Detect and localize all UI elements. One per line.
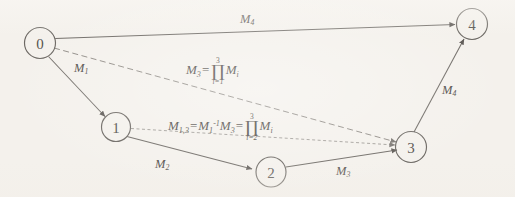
node-3-label: 3: [407, 140, 415, 156]
edge-label-3-4: M4: [442, 84, 456, 97]
node-3[interactable]: 3: [396, 132, 427, 163]
edge-0-to-4: [55, 25, 455, 39]
product-symbol-1: 3∏i=1: [211, 57, 225, 86]
node-1-label: 1: [112, 120, 120, 136]
edge-label-1-2: M2: [155, 158, 169, 171]
graph-svg: 0 1 2 3 4: [0, 0, 515, 197]
diagram-canvas: 0 1 2 3 4 M4 M1 M2 M3 M4 M3=3∏: [0, 0, 515, 197]
edge-label-0-4: M4: [240, 13, 254, 26]
node-0-label: 0: [36, 36, 44, 52]
node-4[interactable]: 4: [457, 9, 488, 40]
node-0[interactable]: 0: [25, 28, 56, 59]
node-4-label: 4: [468, 17, 476, 33]
edge-label-0-1: M1: [74, 62, 88, 75]
formula-edge-1-3: M1,3=M1-1M3=3∏i=2Mi: [168, 113, 273, 142]
product-symbol-2: 3∏i=2: [245, 113, 259, 142]
node-2[interactable]: 2: [256, 157, 286, 187]
edge-3-to-4: [414, 39, 464, 132]
node-2-label: 2: [267, 165, 275, 181]
edge-label-2-3: M3: [336, 165, 350, 178]
formula-edge-0-3: M3=3∏i=1Mi: [186, 57, 239, 86]
node-1[interactable]: 1: [102, 113, 131, 142]
